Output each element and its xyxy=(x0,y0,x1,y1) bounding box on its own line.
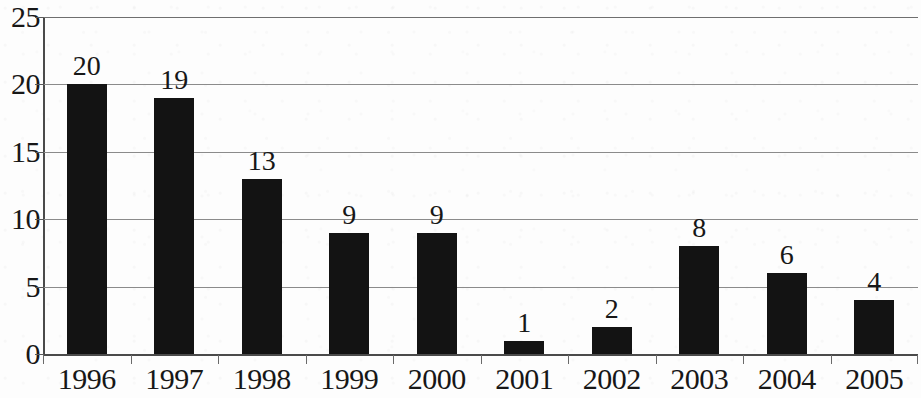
bar-value-label-2004: 6 xyxy=(780,241,794,269)
bar-value-label-2000: 9 xyxy=(430,201,444,229)
x-tick-mark-4 xyxy=(393,355,394,364)
x-tick-mark-3 xyxy=(306,355,307,364)
x-axis-label-2000: 2000 xyxy=(408,364,466,394)
x-tick-mark-6 xyxy=(568,355,569,364)
bar-2003[interactable] xyxy=(679,246,719,354)
y-tick-mark-0 xyxy=(35,354,44,355)
bar-value-label-1998: 13 xyxy=(248,147,276,175)
gridline-25 xyxy=(43,17,918,18)
bar-1996[interactable] xyxy=(67,84,107,354)
bar-2005[interactable] xyxy=(854,300,894,354)
bar-value-label-2005: 4 xyxy=(867,268,881,296)
bar-value-label-1996: 20 xyxy=(73,52,101,80)
bar-value-label-1999: 9 xyxy=(342,201,356,229)
y-tick-mark-25 xyxy=(35,17,44,18)
bar-2000[interactable] xyxy=(417,233,457,354)
y-tick-mark-15 xyxy=(35,152,44,153)
x-tick-mark-5 xyxy=(481,355,482,364)
x-axis-label-2003: 2003 xyxy=(670,364,728,394)
x-axis-label-1999: 1999 xyxy=(320,364,378,394)
bar-2004[interactable] xyxy=(767,273,807,354)
x-tick-mark-8 xyxy=(743,355,744,364)
y-axis-tick-labels: 0510152025 xyxy=(0,0,40,398)
x-tick-mark-10 xyxy=(917,355,918,364)
x-axis-label-2005: 2005 xyxy=(845,364,903,394)
x-axis-label-2002: 2002 xyxy=(583,364,641,394)
y-tick-mark-10 xyxy=(35,219,44,220)
x-axis-label-1996: 1996 xyxy=(58,364,116,394)
bar-1998[interactable] xyxy=(242,179,282,354)
bar-2001[interactable] xyxy=(504,341,544,354)
bar-value-label-2003: 8 xyxy=(692,214,706,242)
x-axis-label-2004: 2004 xyxy=(758,364,816,394)
bar-value-label-2002: 2 xyxy=(605,295,619,323)
bar-chart: 0510152025 2019139912864 199619971998199… xyxy=(0,0,921,398)
x-axis-label-2001: 2001 xyxy=(495,364,553,394)
x-tick-mark-0 xyxy=(43,355,44,364)
x-tick-mark-7 xyxy=(656,355,657,364)
x-axis-label-1997: 1997 xyxy=(145,364,203,394)
y-tick-mark-5 xyxy=(35,287,44,288)
x-tick-mark-2 xyxy=(218,355,219,364)
x-axis-label-1998: 1998 xyxy=(233,364,291,394)
y-tick-mark-20 xyxy=(35,84,44,85)
bar-1999[interactable] xyxy=(329,233,369,354)
bar-value-label-1997: 19 xyxy=(160,66,188,94)
x-tick-mark-9 xyxy=(831,355,832,364)
bar-2002[interactable] xyxy=(592,327,632,354)
plot-area: 2019139912864 xyxy=(43,17,918,354)
x-tick-mark-1 xyxy=(131,355,132,364)
bar-value-label-2001: 1 xyxy=(517,309,531,337)
bar-1997[interactable] xyxy=(154,98,194,354)
